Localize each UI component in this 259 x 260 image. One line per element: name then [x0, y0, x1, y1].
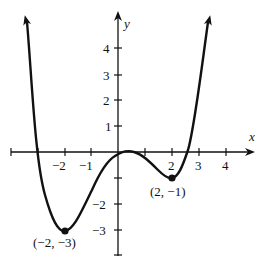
y-axis-label: y [122, 16, 130, 31]
minimum-point [61, 227, 68, 234]
y-tick-label: −3 [92, 223, 106, 238]
x-tick-label: −2 [52, 158, 66, 173]
point-label-local: (2, −1) [150, 184, 186, 199]
point-label-min: (−2, −3) [33, 235, 76, 250]
y-tick-label: 2 [103, 93, 110, 108]
y-tick-label: 1 [105, 119, 112, 134]
x-tick-label: 3 [195, 158, 202, 173]
y-tick-label: 4 [103, 41, 110, 56]
y-tick-label: 3 [103, 68, 110, 83]
local-minimum-point [168, 174, 175, 181]
x-tick-label: 4 [222, 158, 229, 173]
x-tick-label: 2 [168, 158, 175, 173]
y-axis: 4 3 2 1 −2 −3 y [92, 16, 130, 256]
x-tick-label: −1 [79, 158, 93, 173]
function-graph: −2 −1 2 3 4 x 4 3 2 1 −2 −3 y (−2, −3) (… [0, 0, 259, 260]
x-axis-label: x [248, 129, 255, 144]
y-tick-label: −2 [92, 197, 106, 212]
graph-figure: −2 −1 2 3 4 x 4 3 2 1 −2 −3 y (−2, −3) (… [0, 0, 259, 260]
